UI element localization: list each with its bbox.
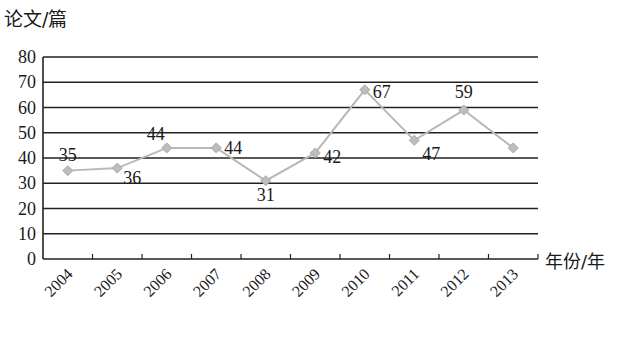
y-tick-label: 50 bbox=[18, 123, 36, 143]
series-line bbox=[68, 90, 514, 181]
diamond-marker-icon bbox=[63, 166, 73, 176]
y-tick-label: 30 bbox=[18, 173, 36, 193]
data-label: 35 bbox=[59, 145, 77, 165]
y-tick-label: 0 bbox=[27, 249, 36, 269]
line-chart: 0102030405060708020042005200620072008200… bbox=[0, 0, 618, 347]
y-tick-label: 40 bbox=[18, 148, 36, 168]
y-tick-label: 60 bbox=[18, 98, 36, 118]
x-tick-label: 2013 bbox=[487, 265, 522, 300]
x-tick-label: 2008 bbox=[239, 265, 274, 300]
data-label: 44 bbox=[224, 138, 242, 158]
diamond-marker-icon bbox=[162, 143, 172, 153]
x-tick-label: 2010 bbox=[338, 265, 373, 300]
y-tick-label: 20 bbox=[18, 199, 36, 219]
data-label: 59 bbox=[455, 82, 473, 102]
x-tick-label: 2009 bbox=[289, 265, 324, 300]
data-label: 44 bbox=[147, 124, 165, 144]
data-label: 36 bbox=[123, 168, 141, 188]
data-label: 42 bbox=[323, 147, 341, 167]
x-tick-label: 2004 bbox=[41, 265, 76, 300]
x-tick-label: 2011 bbox=[388, 265, 422, 299]
x-tick-label: 2012 bbox=[437, 265, 472, 300]
y-tick-label: 70 bbox=[18, 72, 36, 92]
data-label: 47 bbox=[422, 144, 440, 164]
x-tick-label: 2006 bbox=[140, 265, 175, 300]
data-label: 31 bbox=[257, 185, 275, 205]
y-tick-label: 10 bbox=[18, 224, 36, 244]
x-tick-label: 2007 bbox=[190, 265, 225, 300]
data-label: 67 bbox=[373, 82, 391, 102]
y-tick-label: 80 bbox=[18, 47, 36, 67]
diamond-marker-icon bbox=[112, 163, 122, 173]
x-tick-label: 2005 bbox=[91, 265, 126, 300]
